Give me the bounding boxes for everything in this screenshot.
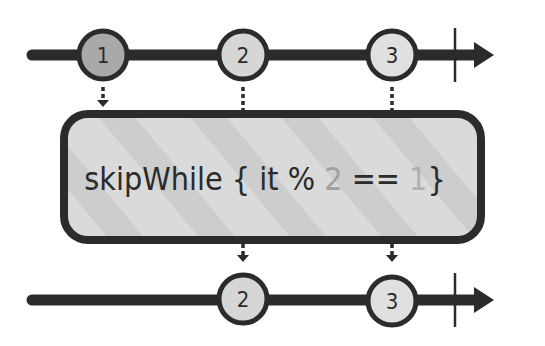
- operator-label: skipWhile { it % 2 == 1}: [84, 160, 445, 198]
- marble-label: 3: [386, 43, 399, 68]
- operator-name: skipWhile: [84, 160, 222, 198]
- marble-label: 2: [237, 287, 250, 312]
- input-timeline-arrow-icon: [474, 42, 494, 68]
- output-marble-3: 3: [368, 277, 416, 325]
- operator-box: skipWhile { it % 2 == 1}: [64, 114, 481, 240]
- open-brace: {: [232, 160, 250, 198]
- down-arrow-icon: [97, 100, 109, 107]
- compare-value: 1: [409, 160, 427, 198]
- down-arrow-icon: [386, 255, 398, 262]
- equals-operator: ==: [352, 160, 400, 198]
- input-marble-1: 1: [79, 31, 127, 79]
- input-connectors: [97, 87, 392, 112]
- down-arrow-icon: [237, 255, 249, 262]
- output-marble-2: 2: [219, 275, 267, 323]
- marble-label: 3: [386, 289, 399, 314]
- close-brace: }: [427, 160, 445, 198]
- output-timeline-arrow-icon: [474, 287, 494, 313]
- input-marble-3: 3: [368, 31, 416, 79]
- input-marble-2: 2: [219, 31, 267, 79]
- marble-label: 1: [97, 43, 110, 68]
- marble-diagram: 1 2 3 skipWhile { it % 2 == 1}: [0, 0, 545, 346]
- input-stream: 1 2 3: [32, 28, 494, 82]
- predicate-prefix: it %: [259, 160, 315, 198]
- mod-value: 2: [324, 160, 342, 198]
- marble-label: 2: [237, 43, 250, 68]
- output-stream: 2 3: [32, 273, 494, 327]
- output-connectors: [237, 244, 398, 262]
